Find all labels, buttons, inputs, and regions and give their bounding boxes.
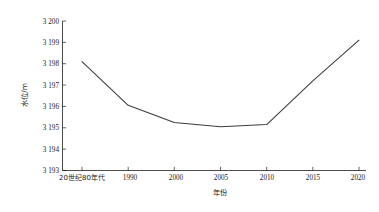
x-axis-title: 年份 [213,188,228,197]
x-tick-label-2005: 2005 [214,174,229,182]
x-tick-marks [82,167,359,171]
x-tick-label-2000: 2000 [169,174,184,182]
y-tick-label: 3 193 [43,167,60,175]
y-tick-label: 3 197 [43,82,60,90]
axis-lines [63,21,367,171]
x-tick-labels: 20世纪80年代 1990 2000 2005 2010 2015 2020 [59,173,366,182]
water-level-line-chart: 3 200 3 199 3 198 3 197 3 196 3 195 3 19… [0,0,379,212]
y-tick-label: 3 196 [43,103,60,111]
x-tick-label-1990: 1990 [123,174,138,182]
y-tick-labels: 3 200 3 199 3 198 3 197 3 196 3 195 3 19… [43,18,60,176]
x-tick-label-2020: 2020 [351,174,366,182]
y-axis-title: 水位/m [20,83,29,107]
y-tick-label: 3 199 [43,39,60,47]
y-tick-label: 3 195 [43,124,60,132]
y-tick-label: 3 200 [43,18,60,26]
y-tick-label: 3 194 [43,146,60,154]
series-line-water-level [82,40,359,127]
x-tick-label-1980s: 20世纪80年代 [59,173,105,182]
x-tick-label-2015: 2015 [306,174,321,182]
y-tick-marks [63,21,67,171]
x-tick-label-2010: 2010 [260,174,275,182]
y-tick-label: 3 198 [43,60,60,68]
